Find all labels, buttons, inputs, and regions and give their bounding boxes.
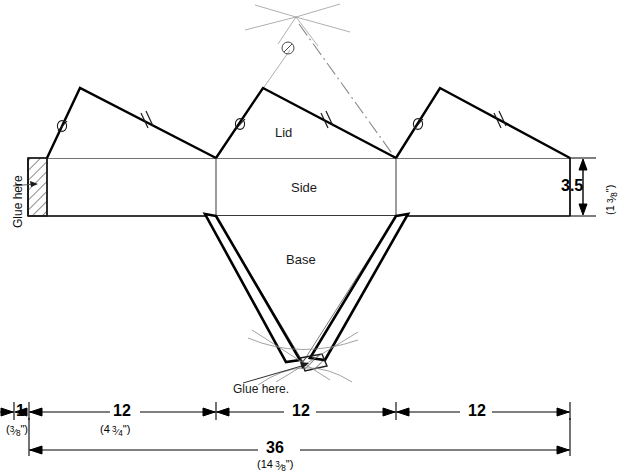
base-inner-v <box>216 216 396 362</box>
height-dimension-value: 3.5 <box>561 178 583 194</box>
dim-arrow-d-right <box>557 408 569 416</box>
height-dimension-alt: (1 3⁄8") <box>605 185 618 215</box>
construction-ray-1 <box>255 5 296 17</box>
height-arrow-top <box>579 159 587 170</box>
compass-point-tick <box>284 44 292 52</box>
dim-arrow-total-right <box>557 446 569 454</box>
lid-triangle-left <box>47 88 216 158</box>
compass-construction-group <box>245 4 350 90</box>
panel-label-side: Side <box>291 181 317 194</box>
height-arrow-bottom <box>579 204 587 215</box>
dim-arrow-b-left <box>30 408 42 416</box>
total-alt-den: 8 <box>281 464 286 473</box>
height-alt-den: 8 <box>610 192 619 197</box>
segment-3-value: 12 <box>468 403 486 419</box>
glue-note-leader-line <box>243 365 305 383</box>
total-dimension-value: 36 <box>266 440 284 456</box>
height-alt-num: 3 <box>606 198 615 203</box>
tab-alt-num: 3 <box>10 425 15 434</box>
technical-drawing-svg <box>0 0 621 474</box>
base-group <box>205 214 408 385</box>
dim-arrow-total-left <box>30 446 42 454</box>
glue-tab-label: Glue here <box>12 175 24 228</box>
seg1-alt-num: 3 <box>112 425 117 434</box>
dim-arrow-a-right <box>1 408 13 416</box>
construction-ray-long-left <box>262 50 290 90</box>
tab-alt-den: 8 <box>16 429 21 438</box>
construction-ray-2 <box>296 4 340 17</box>
glue-note-label: Glue here. <box>233 383 289 395</box>
segment-1-alt: (4 3⁄4") <box>100 424 130 437</box>
total-alt-num: 3 <box>275 460 280 469</box>
lid-triangles-group <box>47 88 570 158</box>
tab-width-value: 1 <box>16 403 25 419</box>
seg1-alt-den: 4 <box>118 429 123 438</box>
lid-triangle-middle <box>216 88 396 158</box>
total-dimension-alt: (14 3⁄8") <box>257 459 293 472</box>
dim-arrow-c-right <box>383 408 395 416</box>
seg1-alt-whole: 4 <box>104 423 110 435</box>
glue-tab-hatched-rect <box>28 158 47 216</box>
construction-ray-6 <box>296 17 318 46</box>
dim-arrow-c-left <box>217 408 229 416</box>
segment-1-value: 12 <box>113 403 131 419</box>
total-alt-whole: 14 <box>261 458 273 470</box>
dim-arrow-b-right <box>203 408 215 416</box>
tab-width-alt: (3⁄8") <box>6 424 28 437</box>
height-alt-whole: 1 <box>604 205 616 211</box>
dim-arrow-d-left <box>397 408 409 416</box>
construction-ray-4 <box>296 17 350 32</box>
segment-2-value: 12 <box>292 403 310 419</box>
drawing-sheet: Lid Side Base Glue here Glue here. 3.5 (… <box>0 0 621 474</box>
panel-label-lid: Lid <box>275 126 292 139</box>
panel-label-base: Base <box>286 253 316 266</box>
